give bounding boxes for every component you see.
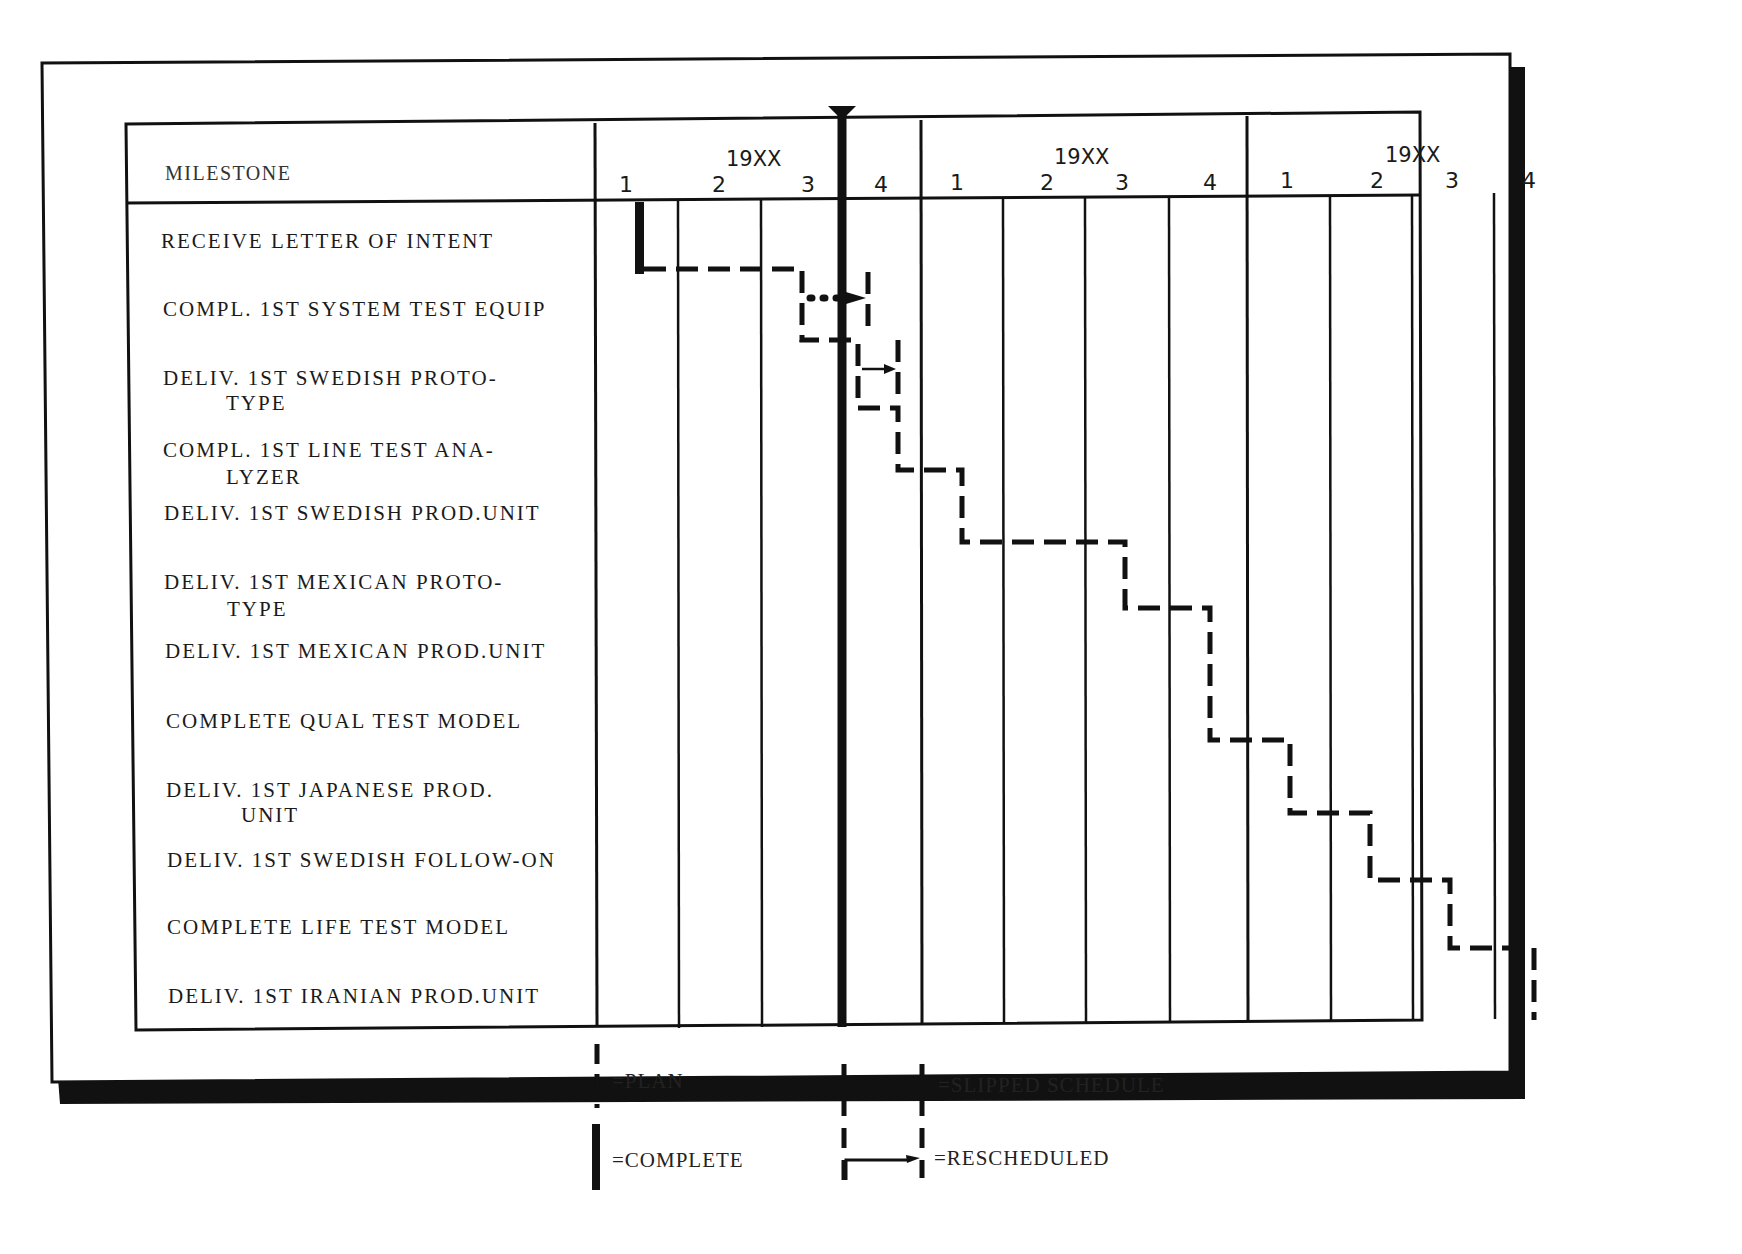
milestone-label: COMPLETE QUAL TEST MODEL	[166, 709, 522, 733]
milestone-label: LYZER	[226, 465, 302, 489]
milestone-label: DELIV. 1ST SWEDISH PROTO-	[163, 366, 498, 390]
legend-label: =RESCHEDULED	[934, 1146, 1110, 1170]
quarter-label: 2	[1040, 170, 1054, 195]
quarter-label: 2	[1370, 168, 1384, 193]
year-divider	[921, 120, 922, 1024]
milestone-label: DELIV. 1ST SWEDISH FOLLOW-ON	[167, 848, 556, 872]
milestone-header: MILESTONE	[165, 162, 291, 184]
frame-shadow-right	[1510, 67, 1525, 1099]
milestone-label: DELIV. 1ST MEXICAN PROD.UNIT	[165, 639, 546, 663]
milestone-column-divider	[595, 123, 597, 1026]
milestone-label: TYPE	[226, 391, 287, 415]
milestone-chart: MILESTONE 19XX 19XX 19XX 1 2 3 4 1 2 3 4…	[0, 0, 1742, 1254]
quarter-label: 3	[1115, 170, 1129, 195]
quarter-label: 4	[1522, 168, 1536, 193]
quarter-label: 3	[1445, 168, 1459, 193]
year-label: 19XX	[1054, 145, 1110, 169]
quarter-label: 3	[801, 172, 815, 197]
milestone-label: TYPE	[227, 597, 288, 621]
legend-rescheduled: =RESCHEDULED	[846, 1146, 1110, 1180]
legend-label: =PLAN	[612, 1069, 684, 1093]
milestone-label: COMPL. 1ST SYSTEM TEST EQUIP	[163, 297, 546, 321]
milestone-label: DELIV. 1ST SWEDISH PROD.UNIT	[164, 501, 541, 525]
year-label: 19XX	[1385, 143, 1441, 167]
year-label: 19XX	[726, 147, 782, 171]
quarter-label: 1	[619, 172, 633, 197]
milestone-label: COMPL. 1ST LINE TEST ANA-	[163, 438, 495, 462]
legend-label: =COMPLETE	[612, 1148, 744, 1172]
complete-symbol-icon	[592, 1124, 600, 1190]
year-divider	[1247, 116, 1248, 1022]
quarter-label: 1	[950, 170, 964, 195]
quarter-label: 1	[1280, 168, 1294, 193]
quarter-label: 4	[1203, 170, 1217, 195]
milestone-label: RECEIVE LETTER OF INTENT	[161, 229, 494, 253]
milestone-label: DELIV. 1ST JAPANESE PROD.	[166, 778, 494, 802]
legend-label: =SLIPPED SCHEDULE	[938, 1073, 1165, 1097]
milestone-label: UNIT	[241, 803, 299, 827]
legend-complete: =COMPLETE	[592, 1124, 744, 1190]
rescheduled-symbol-icon	[846, 1160, 910, 1180]
milestone-label: DELIV. 1ST IRANIAN PROD.UNIT	[168, 984, 540, 1008]
milestone-label: DELIV. 1ST MEXICAN PROTO-	[164, 570, 503, 594]
quarter-label: 4	[874, 172, 888, 197]
complete-bar	[635, 202, 644, 274]
milestone-label: COMPLETE LIFE TEST MODEL	[167, 915, 510, 939]
quarter-label: 2	[712, 172, 726, 197]
